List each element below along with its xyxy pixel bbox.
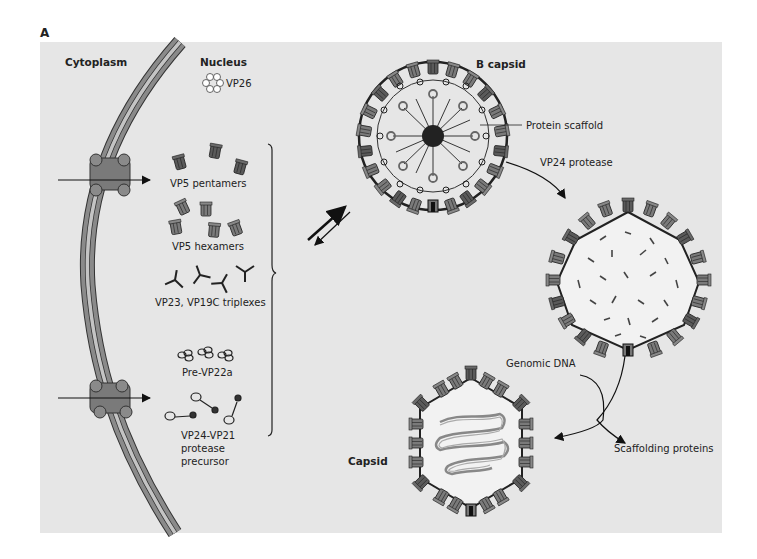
b-capsid-diagram xyxy=(356,60,510,215)
triplexes-label: VP23, VP19C triplexes xyxy=(155,297,266,309)
nuclear-membrane xyxy=(87,42,180,533)
protein-scaffold-label: Protein scaffold xyxy=(526,120,603,132)
genomic-dna-label: Genomic DNA xyxy=(506,358,576,370)
scaffolding-proteins-label: Scaffolding proteins xyxy=(614,443,714,455)
diagram-canvas xyxy=(0,0,757,559)
vp26-icon xyxy=(203,74,224,93)
nuclear-pore-lower xyxy=(90,380,132,418)
protease-precursor-label-1: VP24-VP21 xyxy=(181,430,235,442)
vp5-hexamers-label: VP5 hexamers xyxy=(172,241,244,253)
pre-vp22a-icons xyxy=(178,347,233,361)
capsid-label: Capsid xyxy=(348,455,388,467)
cytoplasm-label: Cytoplasm xyxy=(65,56,127,68)
vp24-protease-label: VP24 protease xyxy=(540,157,613,169)
pre-vp22a-label: Pre-VP22a xyxy=(182,367,233,379)
mature-capsid-diagram xyxy=(409,366,533,516)
grouping-bracket xyxy=(268,144,276,436)
vp5-pentamer-icons xyxy=(172,143,248,175)
cleaved-capsid-diagram xyxy=(546,198,711,358)
vp26-label: VP26 xyxy=(226,78,252,90)
protease-precursor-label-2: protease xyxy=(181,443,225,455)
protease-precursor-label-3: precursor xyxy=(181,456,229,468)
vp5-hexamer-icons xyxy=(169,198,244,237)
triplex-icons xyxy=(165,263,254,293)
vp5-pentamers-label: VP5 pentamers xyxy=(170,178,247,190)
nucleus-label: Nucleus xyxy=(200,56,247,68)
b-capsid-label: B capsid xyxy=(476,58,526,70)
protease-precursor-icons xyxy=(165,393,241,424)
equilibrium-arrows xyxy=(308,207,350,245)
nuclear-pore-upper xyxy=(90,154,130,196)
